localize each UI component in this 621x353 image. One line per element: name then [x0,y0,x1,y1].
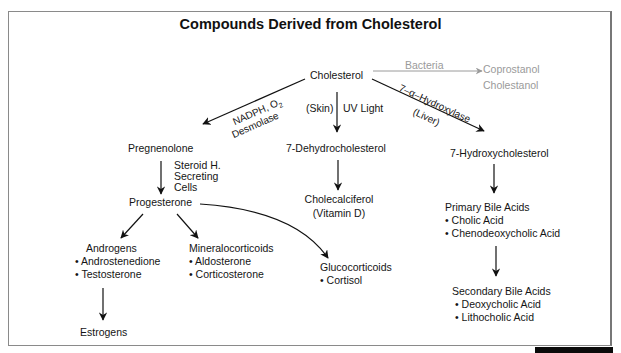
node-7-hydroxycholesterol: 7-Hydroxycholesterol [450,147,549,160]
label-skin: (Skin) [306,102,333,115]
node-cholestanol: Cholestanol [483,79,538,92]
node-progesterone: Progesterone [129,196,192,209]
mineralocorticoids-item: • Corticosterone [189,268,264,281]
androgens-item: • Androstenedione [75,255,160,268]
node-cholecalciferol: Cholecalciferol [296,193,382,206]
node-7-dehydrocholesterol: 7-Dehydrocholesterol [286,142,386,155]
node-estrogens: Estrogens [80,326,127,339]
secondary-bile-acids-item: • Lithocholic Acid [455,311,534,324]
label-bacteria: Bacteria [405,59,444,72]
mineralocorticoids-heading: Mineralocorticoids [189,242,274,255]
mineralocorticoids-item: • Aldosterone [189,255,251,268]
androgens-heading: Androgens [86,242,137,255]
label-uv-light: UV Light [343,102,383,115]
glucocorticoids-item: • Cortisol [320,274,362,287]
primary-bile-acids-item: • Chenodeoxycholic Acid [445,227,560,240]
arrow-progesterone-to-androgens [121,214,143,238]
label-cells: Cells [174,182,197,193]
secondary-bile-acids-item: • Deoxycholic Acid [455,298,541,311]
secondary-bile-acids-heading: Secondary Bile Acids [452,285,551,298]
androgens-item: • Testosterone [75,268,142,281]
arrow-progesterone-to-mineralocorticoids [177,214,198,238]
primary-bile-acids-heading: Primary Bile Acids [445,201,530,214]
node-cholesterol: Cholesterol [310,69,363,82]
node-pregnenolone: Pregnenolone [128,142,193,155]
node-vitamin-d: (Vitamin D) [296,207,382,220]
primary-bile-acids-item: • Cholic Acid [445,214,504,227]
glucocorticoids-heading: Glucocorticoids [320,261,392,274]
node-coprostanol: Coprostanol [483,63,540,76]
